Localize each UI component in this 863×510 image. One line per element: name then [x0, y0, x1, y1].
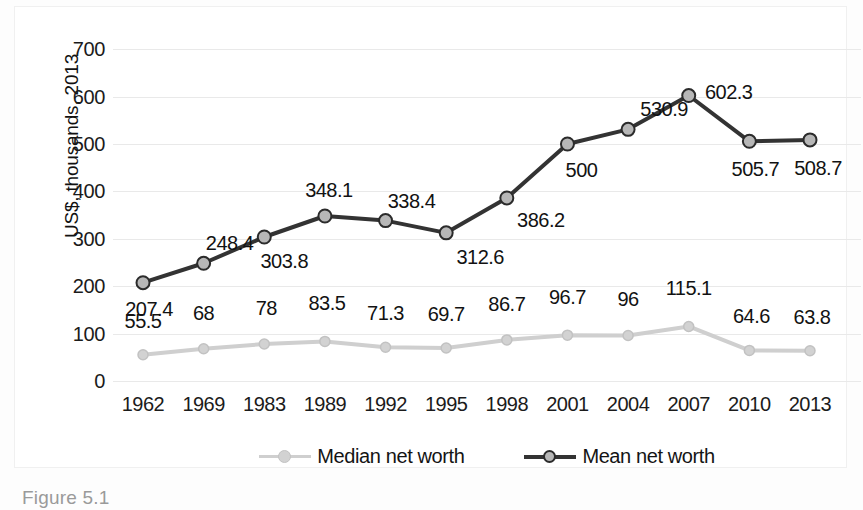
series-marker	[197, 257, 210, 270]
legend-label: Mean net worth	[582, 445, 714, 468]
data-value-label: 505.7	[732, 158, 780, 181]
series-line	[143, 326, 810, 354]
legend-swatch-icon	[259, 448, 311, 464]
series-marker	[441, 343, 451, 353]
data-value-label: 115.1	[666, 277, 712, 300]
x-axis-tick-label: 2007	[667, 393, 710, 416]
y-axis-tick-label: 300	[73, 227, 105, 250]
y-axis-tick-label: 400	[73, 180, 105, 203]
data-value-label: 348.1	[305, 179, 353, 202]
y-axis-tick-label: 500	[73, 133, 105, 156]
x-axis-tick-label: 1989	[304, 393, 347, 416]
x-axis-tick-label: 1969	[182, 393, 225, 416]
gridline	[113, 381, 861, 382]
series-marker	[743, 135, 756, 148]
y-axis-tick-label: 600	[73, 85, 105, 108]
x-axis-tick-label: 1983	[243, 393, 286, 416]
plot-area: 55.5687883.571.369.786.796.796115.164.66…	[113, 35, 861, 381]
series-marker	[199, 344, 209, 354]
series-marker	[318, 210, 331, 223]
chart-legend: Median net worthMean net worth	[113, 439, 861, 473]
x-axis-tick-label: 1962	[122, 393, 165, 416]
data-value-label: 96.7	[549, 286, 586, 309]
x-axis-tick-label: 2004	[607, 393, 650, 416]
data-value-label: 303.8	[260, 250, 308, 273]
data-value-label: 68	[193, 301, 214, 324]
y-axis-tick-labels: 0100200300400500600700	[51, 35, 105, 381]
series-marker	[804, 133, 817, 146]
data-value-label: 338.4	[388, 189, 436, 212]
data-value-label: 63.8	[794, 305, 831, 328]
series-marker	[258, 231, 271, 244]
data-value-label: 602.3	[705, 80, 753, 103]
legend-item[interactable]: Mean net worth	[524, 445, 714, 468]
y-axis-tick-label: 100	[73, 322, 105, 345]
figure-caption: Figure 5.1	[22, 487, 110, 509]
y-axis-tick-label: 0	[94, 370, 105, 393]
data-value-label: 530.9	[640, 98, 688, 121]
legend-swatch-icon	[524, 448, 576, 464]
x-axis-tick-label: 1992	[364, 393, 407, 416]
series-marker	[562, 330, 572, 340]
x-axis-tick-label: 2013	[789, 393, 832, 416]
legend-marker-icon	[278, 450, 291, 463]
legend-item[interactable]: Median net worth	[259, 445, 464, 468]
figure-container: US$, thousands, 2013 0100200300400500600…	[0, 0, 863, 510]
x-axis-tick-label: 2010	[728, 393, 771, 416]
data-value-label: 207.4	[125, 297, 173, 320]
chart-frame: US$, thousands, 2013 0100200300400500600…	[14, 6, 847, 468]
series-marker	[623, 330, 633, 340]
x-axis-tick-label: 1998	[486, 393, 529, 416]
series-marker	[622, 123, 635, 136]
series-marker	[440, 226, 453, 239]
y-axis-tick-label: 700	[73, 38, 105, 61]
data-value-label: 508.7	[794, 156, 842, 179]
data-value-label: 248.4	[206, 232, 254, 255]
data-value-label: 386.2	[517, 208, 565, 231]
x-axis-tick-labels: 1962196919831989199219951998200120042007…	[113, 393, 861, 421]
data-value-label: 69.7	[428, 302, 465, 325]
legend-marker-icon	[543, 450, 556, 463]
series-marker	[744, 345, 754, 355]
x-axis-tick-label: 1995	[425, 393, 468, 416]
series-marker	[320, 336, 330, 346]
y-axis-tick-label: 200	[73, 275, 105, 298]
series-marker	[561, 138, 574, 151]
series-marker	[259, 339, 269, 349]
legend-label: Median net worth	[317, 445, 464, 468]
series-marker	[381, 342, 391, 352]
series-marker	[137, 276, 150, 289]
series-marker	[684, 321, 694, 331]
series-marker	[502, 335, 512, 345]
data-value-label: 83.5	[308, 292, 345, 315]
data-value-label: 64.6	[733, 305, 770, 328]
series-marker	[805, 346, 815, 356]
data-value-label: 78	[256, 297, 277, 320]
data-value-label: 71.3	[367, 302, 404, 325]
data-value-label: 86.7	[488, 292, 525, 315]
series-marker	[379, 214, 392, 227]
data-value-label: 312.6	[456, 245, 504, 268]
data-value-label: 96	[617, 288, 638, 311]
series-marker	[500, 191, 513, 204]
x-axis-tick-label: 2001	[546, 393, 589, 416]
series-marker	[138, 350, 148, 360]
data-value-label: 500	[566, 159, 598, 182]
